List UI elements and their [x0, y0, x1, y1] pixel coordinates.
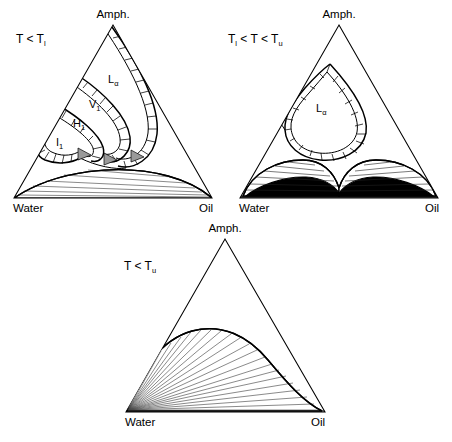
vertex-label-oil: Oil — [199, 202, 213, 214]
condition-label: T < Tl — [16, 32, 46, 48]
figure-canvas: T < Tl Amph. Water Oil — [0, 0, 452, 442]
vertex-label-amphiphile-3: Amph. — [208, 222, 241, 234]
vertex-label-oil-3: Oil — [311, 416, 325, 428]
vertex-label-amphiphile: Amph. — [96, 8, 129, 20]
vertex-label-water: Water — [13, 202, 43, 214]
vertex-label-oil-2: Oil — [425, 202, 439, 214]
condition-label-2: Tl < T < Tu — [228, 32, 283, 48]
ternary-diagram-figure: T < Tl Amph. Water Oil — [0, 0, 452, 442]
vertex-label-water-3: Water — [125, 416, 155, 428]
condition-label-3: T < Tu — [124, 259, 156, 275]
vertex-label-water-2: Water — [239, 202, 269, 214]
vertex-label-amphiphile-2: Amph. — [322, 8, 355, 20]
